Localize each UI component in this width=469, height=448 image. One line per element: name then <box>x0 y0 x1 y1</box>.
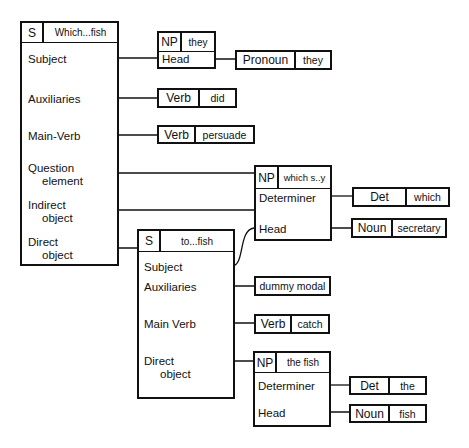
np-they-frame: NP they Head <box>157 31 216 69</box>
noun-fish-box: Noun fish <box>349 404 427 423</box>
det-the-category: Det <box>351 378 390 393</box>
np-which-determiner-slot: Determiner <box>259 192 316 205</box>
np-which-header: NP which s..y <box>256 167 330 189</box>
pronoun-they-box: Pronoun they <box>235 50 332 70</box>
np-which-frame: NP which s..y Determiner Head <box>254 165 332 241</box>
slot-question-element: Question element <box>28 162 83 188</box>
np-fish-value: the fish <box>277 353 329 372</box>
np-which-value: which s..y <box>279 167 330 188</box>
noun-fish-word: fish <box>390 406 425 421</box>
det-the-word: the <box>390 378 425 393</box>
np-they-header: NP they <box>159 33 214 52</box>
slot-auxiliaries: Auxiliaries <box>28 93 80 106</box>
noun-secretary-category: Noun <box>353 220 393 236</box>
verb-did-category: Verb <box>159 90 200 106</box>
det-the-box: Det the <box>349 376 427 395</box>
slot-indirect-object-line2: object <box>28 212 73 225</box>
sub-clause-value: to...fish <box>161 231 233 251</box>
verb-persuade-word: persuade <box>196 127 253 142</box>
det-which-box: Det which <box>352 187 450 207</box>
dummy-modal-box: dummy modal <box>254 276 331 296</box>
sub-clause-header: S to...fish <box>139 231 233 252</box>
slot-indirect-object: Indirect object <box>28 199 73 225</box>
pronoun-category: Pronoun <box>237 52 296 68</box>
sub-clause-tag: S <box>139 231 161 251</box>
det-which-word: which <box>407 189 448 205</box>
slot-direct-object-line1: Direct <box>28 236 73 249</box>
verb-persuade-box: Verb persuade <box>157 125 255 144</box>
slot-question-element-line1: Question <box>28 162 83 175</box>
slot-subject: Subject <box>28 53 66 66</box>
sub-slot-direct-object-line1: Direct <box>144 355 191 368</box>
slot-main-verb: Main-Verb <box>28 130 80 143</box>
np-they-head-slot: Head <box>162 53 190 66</box>
sub-slot-main-verb: Main Verb <box>144 318 196 331</box>
slot-direct-object-line2: object <box>28 249 73 262</box>
det-which-category: Det <box>354 189 407 205</box>
noun-secretary-box: Noun secretary <box>351 218 447 238</box>
noun-secretary-word: secretary <box>393 220 445 236</box>
main-clause-value: Which...fish <box>44 23 117 42</box>
verb-did-box: Verb did <box>157 88 237 108</box>
verb-catch-box: Verb catch <box>254 314 330 334</box>
np-fish-header: NP the fish <box>255 353 329 373</box>
sub-clause-frame: S to...fish Subject Auxiliaries Main Ver… <box>137 229 235 399</box>
noun-fish-category: Noun <box>351 406 390 421</box>
verb-catch-category: Verb <box>256 316 292 332</box>
slot-direct-object: Direct object <box>28 236 73 262</box>
np-fish-frame: NP the fish Determiner Head <box>253 351 331 427</box>
np-fish-tag: NP <box>255 353 277 372</box>
slot-indirect-object-line1: Indirect <box>28 199 73 212</box>
np-which-tag: NP <box>256 167 279 188</box>
sub-slot-subject: Subject <box>144 261 182 274</box>
np-fish-head-slot: Head <box>258 407 286 420</box>
sub-slot-auxiliaries: Auxiliaries <box>144 281 196 294</box>
verb-persuade-category: Verb <box>159 127 196 142</box>
np-which-head-slot: Head <box>259 223 287 236</box>
main-clause-frame: S Which...fish Subject Auxiliaries Main-… <box>20 21 119 266</box>
verb-catch-word: catch <box>292 316 328 332</box>
sub-slot-direct-object: Direct object <box>144 355 191 381</box>
np-they-value: they <box>182 33 214 51</box>
slot-question-element-line2: element <box>28 175 83 188</box>
main-clause-header: S Which...fish <box>22 23 117 43</box>
np-fish-determiner-slot: Determiner <box>258 380 315 393</box>
main-clause-tag: S <box>22 23 44 42</box>
np-they-tag: NP <box>159 33 182 51</box>
sub-slot-direct-object-line2: object <box>144 368 191 381</box>
pronoun-word: they <box>296 52 330 68</box>
verb-did-word: did <box>200 90 235 106</box>
